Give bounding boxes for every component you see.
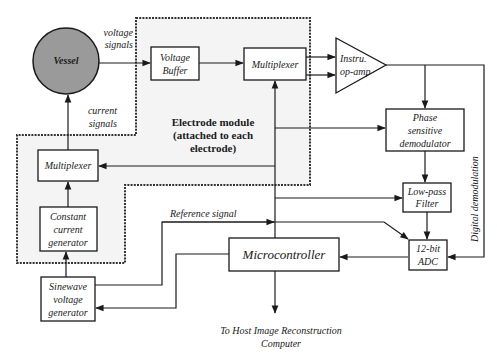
svg-text:Phase: Phase bbox=[412, 112, 438, 123]
block-diagram: Vessel voltage signals current signals V… bbox=[0, 0, 497, 361]
svg-text:sensitive: sensitive bbox=[408, 125, 443, 136]
svg-text:Low-pass: Low-pass bbox=[407, 186, 446, 197]
svg-text:12-bit: 12-bit bbox=[416, 243, 440, 254]
svg-text:demodulator: demodulator bbox=[399, 138, 450, 149]
svg-text:Buffer: Buffer bbox=[163, 65, 188, 76]
svg-text:To Host Image Reconstruction: To Host Image Reconstruction bbox=[220, 325, 342, 336]
voltage-signals-label-1: voltage bbox=[104, 27, 134, 38]
reference-signal-label: Reference signal bbox=[169, 208, 237, 219]
svg-text:Constant: Constant bbox=[50, 211, 86, 222]
svg-text:Multiplexer: Multiplexer bbox=[44, 160, 92, 171]
svg-text:voltage: voltage bbox=[53, 294, 83, 305]
svg-text:Electrode module: Electrode module bbox=[172, 116, 255, 128]
svg-text:op-amp: op-amp bbox=[340, 66, 371, 77]
svg-text:current: current bbox=[53, 224, 82, 235]
svg-text:Instru.: Instru. bbox=[339, 53, 366, 64]
vessel-label: Vessel bbox=[54, 55, 79, 66]
current-signals-label-1: current bbox=[88, 105, 117, 116]
svg-text:Filter: Filter bbox=[415, 198, 439, 209]
voltage-signals-label-2: signals bbox=[105, 39, 133, 50]
svg-text:Voltage: Voltage bbox=[160, 52, 191, 63]
current-signals-label-2: signals bbox=[89, 118, 117, 129]
svg-text:ADC: ADC bbox=[417, 256, 438, 267]
svg-text:generator: generator bbox=[48, 307, 88, 318]
svg-text:Microcontroller: Microcontroller bbox=[242, 247, 327, 262]
svg-text:electrode): electrode) bbox=[190, 142, 237, 155]
svg-text:Computer: Computer bbox=[261, 338, 301, 349]
digital-demod-label: Digital demodulation bbox=[469, 156, 480, 243]
svg-text:Sinewave: Sinewave bbox=[49, 281, 87, 292]
svg-text:generator: generator bbox=[48, 237, 88, 248]
svg-text:(attached to each: (attached to each bbox=[173, 129, 253, 142]
svg-text:Multiplexer: Multiplexer bbox=[251, 59, 299, 70]
